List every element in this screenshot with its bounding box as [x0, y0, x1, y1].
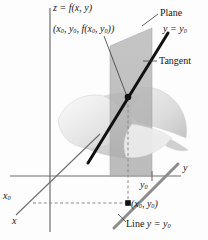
label-tangent: Tangent — [159, 56, 191, 66]
point-foot — [125, 200, 131, 206]
label-plane-equation: y = y0 — [163, 24, 187, 35]
label-axis-y: y — [183, 163, 187, 173]
label-point-3d: (x0, y0, f(x0, y0)) — [53, 24, 114, 35]
label-tick-x0: x0 — [3, 191, 11, 202]
label-point-2d: (x0, y0) — [131, 199, 158, 210]
figure-canvas — [0, 0, 208, 240]
label-surface-equation: z = f(x, y) — [53, 3, 92, 13]
label-tick-y0: y0 — [140, 180, 148, 191]
tangent-plane-figure: z = f(x, y) (x0, y0, f(x0, y0)) Plane y … — [0, 0, 208, 240]
label-axis-x: x — [12, 216, 16, 226]
label-plane: Plane — [160, 8, 182, 18]
point-tangency — [125, 94, 132, 101]
label-line-y0: Line y = y0 — [126, 219, 171, 230]
leader-plane — [142, 14, 158, 26]
